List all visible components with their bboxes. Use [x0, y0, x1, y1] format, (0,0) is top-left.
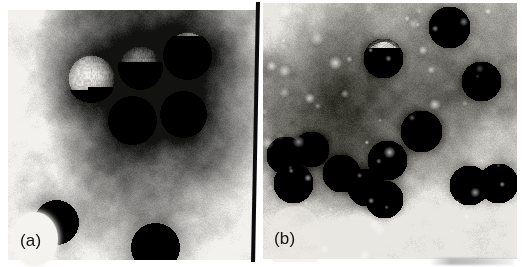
- panel-a-label: (a): [20, 232, 41, 249]
- figure-root: (a) (b): [0, 0, 526, 267]
- panel-b-label: (b): [274, 230, 295, 247]
- bottom-edge-smudge: [430, 258, 514, 265]
